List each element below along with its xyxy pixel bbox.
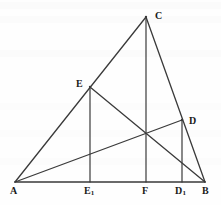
point-label-b: B: [202, 186, 209, 196]
point-label-a: A: [10, 186, 17, 196]
vertex-dot-c: [145, 16, 147, 18]
geometry-figure: ABCDEE1FD1: [0, 0, 221, 205]
point-label-text: C: [155, 10, 162, 21]
point-label-f: F: [142, 186, 148, 196]
point-label-e1: E1: [84, 186, 94, 197]
point-label-text: D: [189, 115, 196, 126]
segment-layer: [15, 17, 205, 182]
point-label-text: F: [142, 185, 148, 196]
point-label-e: E: [76, 79, 83, 89]
point-label-subscript: 1: [91, 189, 95, 197]
vertex-dot-e: [89, 86, 91, 88]
vertex-dot-layer: [89, 16, 183, 121]
point-label-text: E: [84, 185, 91, 196]
point-label-d1: D1: [175, 186, 186, 197]
point-label-text: A: [10, 185, 17, 196]
geometry-canvas: [0, 0, 221, 205]
point-label-d: D: [189, 116, 196, 126]
point-label-subscript: 1: [182, 189, 186, 197]
vertex-dot-d: [181, 119, 183, 121]
point-label-text: E: [76, 78, 83, 89]
point-label-c: C: [155, 11, 162, 21]
point-label-text: B: [202, 185, 209, 196]
